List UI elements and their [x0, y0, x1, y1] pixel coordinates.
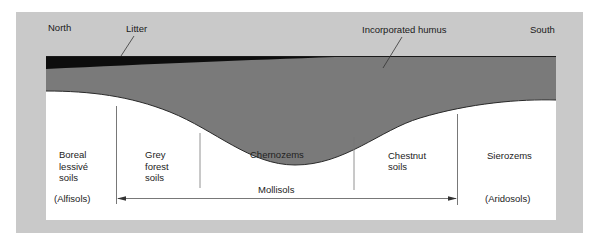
zone-grey-forest-line-3: soils [145, 172, 164, 183]
zone-boreal-line-1: Boreal [59, 149, 86, 160]
zone-grey-forest-line-1: Grey [145, 149, 166, 160]
zone-boreal-line-3: soils [59, 172, 78, 183]
zone-chernozems: Chernozems [250, 149, 304, 160]
zone-sierozems: Sierozems [487, 150, 532, 161]
zone-chestnut-line-1: Chestnut [388, 150, 426, 161]
mollisols-label: Mollisols [258, 184, 295, 195]
soil-profile-diagram: North Litter Incorporated humus South Bo… [0, 0, 599, 245]
incorporated-humus-label: Incorporated humus [362, 24, 447, 35]
zone-chestnut-line-2: soils [388, 161, 407, 172]
aridosols-label: (Aridosols) [485, 193, 530, 204]
south-label: South [530, 24, 555, 35]
zone-grey-forest-line-2: forest [145, 161, 169, 172]
zone-boreal-line-2: lessivé [59, 161, 88, 172]
north-label: North [48, 22, 71, 33]
alfisols-label: (Alfisols) [54, 193, 90, 204]
litter-label: Litter [126, 23, 147, 34]
